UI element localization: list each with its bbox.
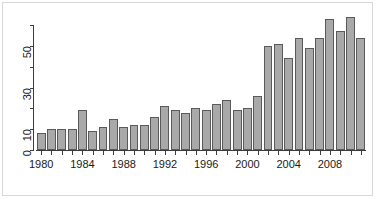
bar: [37, 133, 46, 150]
x-axis-tick-label: 2000: [235, 158, 259, 170]
x-axis-tick-mark: [340, 151, 341, 155]
x-axis-tick-label: 2008: [318, 158, 342, 170]
bar: [253, 96, 262, 150]
bar: [68, 129, 77, 150]
x-axis-tick-mark: [278, 151, 279, 155]
x-axis-tick-mark: [41, 151, 42, 155]
bar: [222, 100, 231, 150]
x-axis-tick-mark: [361, 151, 362, 155]
bar: [243, 108, 252, 150]
x-axis-tick-label: 1988: [111, 158, 135, 170]
x-axis-tick-mark: [206, 151, 207, 155]
x-axis-tick-mark: [227, 151, 228, 155]
x-axis-tick-label: 1980: [29, 158, 53, 170]
x-axis-tick-mark: [309, 151, 310, 155]
x-axis-tick-mark: [351, 151, 352, 155]
x-axis-tick-mark: [72, 151, 73, 155]
bar: [119, 127, 128, 150]
bar: [140, 125, 149, 150]
x-axis-tick-mark: [216, 151, 217, 155]
bar: [99, 127, 108, 150]
x-axis-tick-mark: [186, 151, 187, 155]
x-axis-tick-mark: [196, 151, 197, 155]
bar: [47, 129, 56, 150]
x-axis-tick-mark: [175, 151, 176, 155]
x-axis-tick-label: 1984: [70, 158, 94, 170]
bar: [191, 108, 200, 150]
bar: [150, 117, 159, 150]
bar: [356, 38, 365, 151]
bar: [57, 129, 66, 150]
x-axis-tick-mark: [113, 151, 114, 155]
bar: [295, 38, 304, 151]
x-axis-tick-mark: [155, 151, 156, 155]
bar: [130, 125, 139, 150]
bar: [109, 119, 118, 150]
x-axis-tick-mark: [165, 151, 166, 155]
x-axis-tick-label: 1996: [194, 158, 218, 170]
x-axis-tick-mark: [330, 151, 331, 155]
x-axis-tick-mark: [258, 151, 259, 155]
bar: [346, 17, 355, 150]
plot-area: [36, 25, 366, 150]
bar: [336, 31, 345, 150]
bar: [305, 48, 314, 150]
x-axis-tick-mark: [82, 151, 83, 155]
bar: [233, 110, 242, 150]
bar: [171, 110, 180, 150]
x-axis-tick-label: 1992: [153, 158, 177, 170]
bar: [181, 113, 190, 151]
x-axis-tick-mark: [237, 151, 238, 155]
x-axis-tick-mark: [289, 151, 290, 155]
bar: [160, 106, 169, 150]
x-axis-tick-mark: [93, 151, 94, 155]
x-axis-tick-mark: [144, 151, 145, 155]
bar: [264, 46, 273, 150]
bar: [88, 131, 97, 150]
bar: [315, 38, 324, 151]
x-axis-tick-mark: [299, 151, 300, 155]
x-axis-tick-mark: [124, 151, 125, 155]
x-axis-tick-mark: [247, 151, 248, 155]
bar: [212, 104, 221, 150]
x-axis-tick-label: 2004: [276, 158, 300, 170]
x-axis-tick-mark: [103, 151, 104, 155]
bar: [274, 44, 283, 150]
x-axis-tick-mark: [268, 151, 269, 155]
bar: [202, 110, 211, 150]
bar-chart-figure: 0103050 19801984198819921996200020042008: [0, 0, 376, 199]
bar: [284, 58, 293, 150]
bar: [78, 110, 87, 150]
x-axis-tick-mark: [134, 151, 135, 155]
x-axis-tick-mark: [62, 151, 63, 155]
bar: [325, 19, 334, 150]
x-axis-tick-mark: [51, 151, 52, 155]
x-axis-tick-mark: [320, 151, 321, 155]
bars-container: [36, 25, 366, 150]
